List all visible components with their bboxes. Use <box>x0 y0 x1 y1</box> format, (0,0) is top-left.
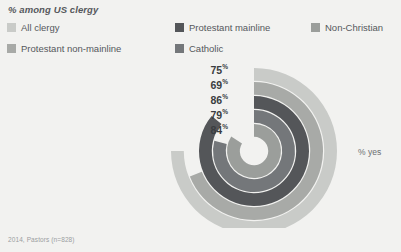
value-number: 86 <box>211 94 223 106</box>
legend-swatch-icon <box>7 44 16 53</box>
percent-sign: % <box>222 93 228 100</box>
value-label-catholic: 79% <box>188 108 228 121</box>
legend-item-label: Catholic <box>189 43 223 54</box>
value-number: 75 <box>211 64 223 76</box>
legend-swatch-icon <box>311 23 320 32</box>
percent-sign: % <box>222 63 228 70</box>
value-number: 79 <box>211 109 223 121</box>
legend-item-label: All clergy <box>21 22 60 33</box>
percent-sign: % <box>222 78 228 85</box>
legend-swatch-icon <box>175 44 184 53</box>
radial-bar-segment[interactable] <box>227 124 281 178</box>
legend-swatch-icon <box>7 23 16 32</box>
chart-title: % among US clergy <box>8 4 98 15</box>
value-number: 69 <box>211 79 223 91</box>
chart-footnote: 2014, Pastors (n=828) <box>8 236 75 243</box>
radial-rings-group <box>171 68 337 228</box>
legend-item-protestant-mainline[interactable]: Protestant mainline <box>175 22 270 33</box>
percent-sign: % <box>222 108 228 115</box>
radial-plot-area: 75% 69% 86% 79% 84% % yes <box>0 58 401 228</box>
value-label-protestant-mainline: 86% <box>188 93 228 106</box>
legend-item-non-christian[interactable]: Non-Christian <box>311 22 383 33</box>
value-label-protestant-non-mainline: 69% <box>188 78 228 91</box>
value-number: 84 <box>211 124 223 136</box>
radial-chart-card: % among US clergy All clergy Protestant … <box>0 0 401 252</box>
percent-sign: % <box>222 123 228 130</box>
legend-swatch-icon <box>175 23 184 32</box>
value-label-non-christian: 84% <box>188 123 228 136</box>
value-label-all-clergy: 75% <box>188 63 228 76</box>
axis-caption: % yes <box>358 147 381 157</box>
legend-item-protestant-non-mainline[interactable]: Protestant non-mainline <box>7 43 121 54</box>
legend-item-label: Non-Christian <box>325 22 383 33</box>
legend-item-all-clergy[interactable]: All clergy <box>7 22 60 33</box>
legend-item-catholic[interactable]: Catholic <box>175 43 223 54</box>
legend-item-label: Protestant mainline <box>189 22 270 33</box>
legend-item-label: Protestant non-mainline <box>21 43 121 54</box>
